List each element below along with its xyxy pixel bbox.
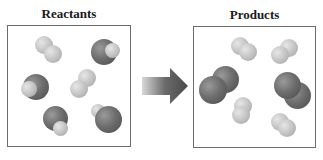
- products-box: [193, 26, 316, 148]
- atom-light: [239, 43, 257, 61]
- products-title: Products: [193, 7, 316, 23]
- atom-light: [271, 46, 289, 64]
- atom-light: [278, 119, 296, 137]
- reactants-title: Reactants: [7, 6, 131, 22]
- atom-light: [53, 121, 68, 136]
- atom-light: [105, 43, 120, 58]
- reactants-box: [7, 25, 131, 147]
- atom-light: [70, 80, 88, 98]
- atom-light: [44, 45, 62, 63]
- right-arrow-icon: [140, 66, 190, 106]
- atom-dark: [95, 106, 122, 133]
- atom-dark: [199, 76, 227, 104]
- atom-light: [21, 81, 37, 97]
- atom-dark: [274, 72, 301, 99]
- atom-light: [232, 106, 250, 124]
